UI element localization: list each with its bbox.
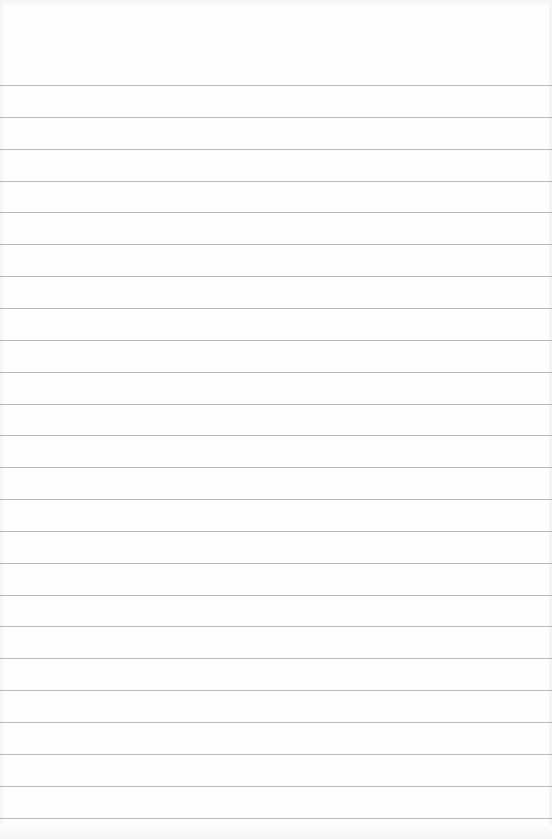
ruled-line (0, 212, 552, 213)
ruled-line (0, 435, 552, 436)
paper-top-edge (0, 0, 552, 6)
ruled-line (0, 340, 552, 341)
ruled-line (0, 595, 552, 596)
ruled-line (0, 181, 552, 182)
ruled-line (0, 85, 552, 86)
ruled-line (0, 467, 552, 468)
ruled-line (0, 117, 552, 118)
ruled-line (0, 786, 552, 787)
ruled-line (0, 818, 552, 819)
ruled-line (0, 499, 552, 500)
ruled-line (0, 722, 552, 723)
ruled-line (0, 244, 552, 245)
ruled-line (0, 372, 552, 373)
ruled-line (0, 531, 552, 532)
ruled-line (0, 754, 552, 755)
ruled-line (0, 626, 552, 627)
ruled-line (0, 658, 552, 659)
paper-left-edge (0, 0, 3, 839)
ruled-line (0, 276, 552, 277)
ruled-line (0, 149, 552, 150)
ruled-line (0, 690, 552, 691)
ruled-line (0, 308, 552, 309)
ruled-line (0, 404, 552, 405)
lined-paper-page (0, 0, 552, 839)
paper-bottom-edge (0, 825, 552, 839)
ruled-line (0, 563, 552, 564)
